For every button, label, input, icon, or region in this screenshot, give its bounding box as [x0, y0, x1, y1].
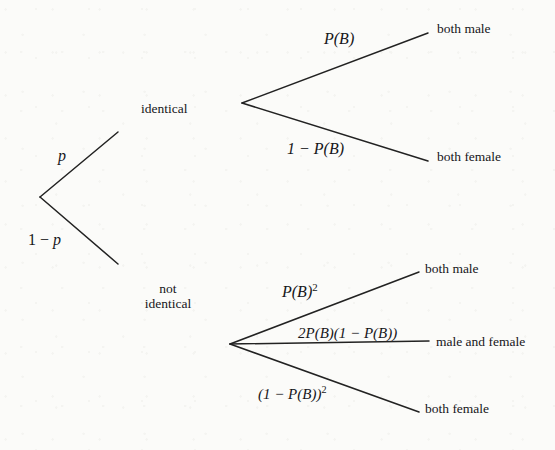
branch-label-pb: P(B) — [324, 30, 354, 48]
branch-label-one-minus-p: 1 − p — [28, 231, 61, 249]
outcome-identical-both-male: both male — [437, 21, 491, 36]
branch-label-one-minus-p-minus: − — [40, 231, 49, 248]
outcome-not-identical-both-male: both male — [425, 261, 479, 276]
branch-label-one-minus-p-one: 1 — [28, 231, 40, 248]
branch-label-one-minus-pb-squared-base: (1 − P(B)) — [258, 386, 321, 402]
outcome-identical-both-female: both female — [437, 149, 501, 164]
probability-tree-figure: identical not identical p 1 − p P(B) 1 −… — [0, 0, 555, 450]
node-label-not-identical-line1: not — [137, 281, 199, 296]
node-label-not-identical: not identical — [137, 281, 199, 311]
branch-label-pb-squared-base: P(B) — [282, 283, 312, 300]
outcome-not-identical-male-and-female: male and female — [436, 334, 525, 349]
branch-label-one-minus-pb-squared-exponent: 2 — [321, 384, 326, 395]
branch-label-one-minus-pb: 1 − P(B) — [287, 140, 344, 158]
branch-label-p: p — [58, 147, 66, 165]
branch-label-pb-squared: P(B)2 — [282, 283, 318, 301]
tree-branch-lines — [0, 0, 555, 450]
node-label-not-identical-line2: identical — [137, 296, 199, 311]
branch-root-to-identical — [40, 132, 118, 197]
branch-label-two-pb-one-minus-pb: 2P(B)(1 − P(B)) — [298, 325, 397, 342]
node-label-identical: identical — [141, 101, 187, 116]
outcome-not-identical-both-female: both female — [425, 401, 489, 416]
branch-label-pb-squared-exponent: 2 — [312, 281, 317, 293]
branch-label-one-minus-pb-squared: (1 − P(B))2 — [258, 386, 327, 403]
branch-label-one-minus-p-var: p — [49, 231, 61, 248]
